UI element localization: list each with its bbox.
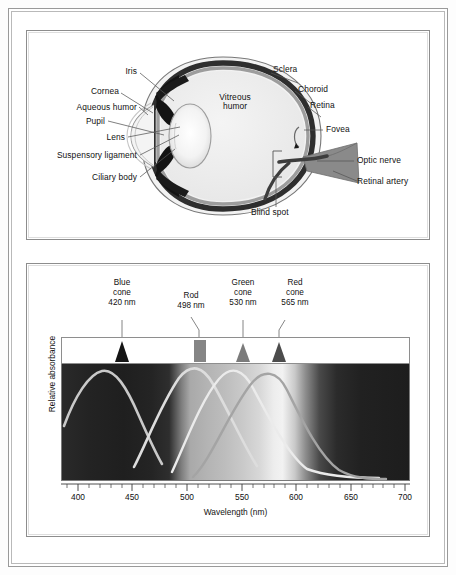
eye-label-retina: Retina: [310, 101, 335, 110]
eye-label-optic-nerve: Optic nerve: [357, 156, 401, 165]
eye-label-aqueous-humor: Aqueous humor: [33, 103, 137, 112]
xtick-600: 600: [276, 492, 316, 502]
eye-label-ciliary-body: Ciliary body: [63, 173, 137, 182]
xtick-550: 550: [222, 492, 262, 502]
eye-label-lens: Lens: [75, 133, 125, 142]
eye-label-choroid: Choroid: [298, 85, 328, 94]
eye-label-sclera: Sclera: [273, 65, 297, 74]
x-axis-label: Wavelength (nm): [61, 507, 410, 517]
eye-label-pupil: Pupil: [53, 117, 105, 126]
eye-label-vitreous-humor: Vitreous humor: [205, 93, 265, 112]
eye-label-iris: Iris: [73, 67, 137, 76]
eye-label-blind-spot: Blind spot: [251, 208, 289, 217]
y-axis-label: Relative absorbance: [47, 319, 57, 429]
lens: [169, 104, 211, 168]
xtick-700: 700: [385, 492, 425, 502]
absorbance-chart-panel: Blue cone 420 nm Rod 498 nm Green cone 5…: [26, 263, 430, 537]
xtick-650: 650: [331, 492, 371, 502]
eye-anatomy-panel: Iris Cornea Aqueous humor Pupil Lens Sus…: [26, 30, 430, 240]
xtick-400: 400: [58, 492, 98, 502]
eye-label-retinal-artery: Retinal artery: [357, 177, 408, 186]
xtick-450: 450: [112, 492, 152, 502]
eye-label-suspensory-ligament: Suspensory ligament: [29, 151, 137, 160]
vitreous-humor-line2: humor: [223, 101, 247, 111]
eye-label-cornea: Cornea: [49, 87, 119, 96]
chart-wrap: Blue cone 420 nm Rod 498 nm Green cone 5…: [27, 264, 431, 538]
figure-page: Iris Cornea Aqueous humor Pupil Lens Sus…: [0, 0, 456, 575]
eye-label-fovea: Fovea: [326, 125, 350, 134]
xtick-500: 500: [167, 492, 207, 502]
